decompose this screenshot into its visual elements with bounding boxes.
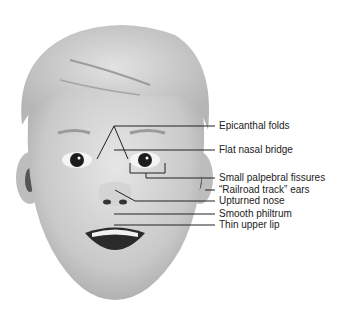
label-upturned-nose: Upturned nose (219, 195, 285, 207)
label-epicanthal-folds: Epicanthal folds (219, 120, 290, 132)
label-thin-upper-lip: Thin upper lip (219, 219, 280, 231)
child-face-illustration (0, 0, 341, 312)
label-flat-nasal-bridge: Flat nasal bridge (219, 144, 293, 156)
label-small-palpebral-fissures: Small palpebral fissures (219, 172, 325, 184)
